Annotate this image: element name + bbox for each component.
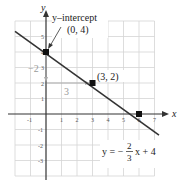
svg-text:5: 5 xyxy=(122,117,125,123)
line-graph: x y -1 1 2 3 4 5 6 7 -3 -2 -1 1 2 3 4 5 … xyxy=(0,0,191,191)
x-axis-label: x xyxy=(171,108,177,119)
rise-arrow-icon xyxy=(44,77,48,82)
y-intercept-callout: y–intercept (0, 4) xyxy=(48,10,108,49)
point-x-intercept xyxy=(136,111,142,117)
point-y-intercept xyxy=(43,49,49,55)
svg-text:3: 3 xyxy=(91,117,94,123)
y-intercept-coords: (0, 4) xyxy=(67,24,89,36)
run-label: 3 xyxy=(64,86,69,97)
svg-text:2: 2 xyxy=(76,117,79,123)
svg-text:4: 4 xyxy=(107,117,110,123)
svg-text:-2: -2 xyxy=(38,143,43,149)
x-axis-arrow-icon xyxy=(162,111,169,117)
equation-label: y = − 2 3 x + 4 xyxy=(100,140,156,168)
svg-text:y = −: y = − xyxy=(102,146,124,157)
svg-text:3: 3 xyxy=(127,153,132,163)
svg-text:1: 1 xyxy=(41,96,44,102)
slope-annotation: −2 3 xyxy=(28,55,90,97)
svg-text:-3: -3 xyxy=(38,158,43,164)
point-3-2 xyxy=(90,80,96,86)
svg-text:-1: -1 xyxy=(38,127,43,133)
callout-arrow-icon xyxy=(48,43,53,49)
svg-text:-1: -1 xyxy=(27,117,32,123)
svg-text:3: 3 xyxy=(41,65,44,71)
y-intercept-title: y–intercept xyxy=(52,12,97,23)
svg-text:2: 2 xyxy=(127,141,132,151)
svg-text:1: 1 xyxy=(60,117,63,123)
rise-label: −2 xyxy=(28,63,39,74)
svg-text:x + 4: x + 4 xyxy=(135,146,156,157)
y-axis-label: y xyxy=(40,2,46,13)
point-label-3-2: (3, 2) xyxy=(97,71,119,83)
svg-text:2: 2 xyxy=(41,81,44,87)
svg-text:5: 5 xyxy=(41,34,44,40)
svg-text:7: 7 xyxy=(153,117,156,123)
